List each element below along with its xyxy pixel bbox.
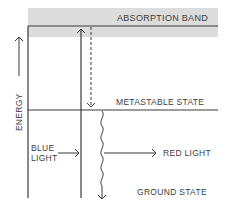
- energy-axis-label: ENERGY: [15, 92, 24, 132]
- emission-wavy-arrow-icon: [101, 111, 103, 199]
- ground-state-label: GROUND STATE: [137, 188, 207, 197]
- metastable-state-label: METASTABLE STATE: [116, 98, 204, 107]
- absorption-band-label: ABSORPTION BAND: [117, 14, 208, 23]
- blue-light-label-line1: BLUE: [31, 144, 54, 153]
- blue-light-label-line2: LIGHT: [31, 154, 58, 163]
- red-light-label: RED LIGHT: [163, 149, 211, 158]
